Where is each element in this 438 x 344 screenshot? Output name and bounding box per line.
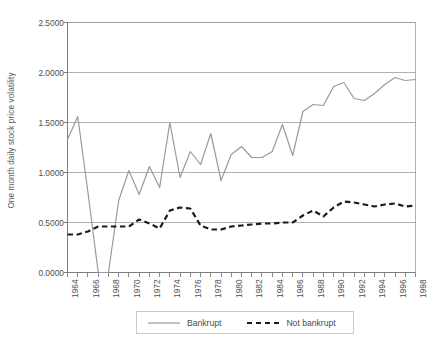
legend-item-bankrupt: Bankrupt bbox=[148, 312, 221, 333]
chart-legend: Bankrupt Not bankrupt bbox=[136, 311, 354, 334]
x-tick-label: 1974 bbox=[173, 279, 181, 298]
legend-swatch-dashed-icon bbox=[247, 318, 279, 328]
x-axis-tick-labels: 1964196619681970197219741976197819801982… bbox=[0, 0, 438, 344]
x-tick-label: 1972 bbox=[153, 279, 161, 298]
legend-item-not-bankrupt: Not bankrupt bbox=[247, 312, 335, 333]
x-tick-label: 1998 bbox=[419, 279, 427, 298]
x-tick-label: 1964 bbox=[71, 279, 79, 298]
x-tick-label: 1990 bbox=[337, 279, 345, 298]
x-tick-label: 1980 bbox=[235, 279, 243, 298]
x-tick-label: 1982 bbox=[255, 279, 263, 298]
x-tick-label: 1968 bbox=[112, 279, 120, 298]
x-tick-label: 1978 bbox=[214, 279, 222, 298]
x-tick-label: 1986 bbox=[296, 279, 304, 298]
legend-label-not-bankrupt: Not bankrupt bbox=[286, 318, 335, 328]
x-tick-label: 1996 bbox=[399, 279, 407, 298]
x-tick-label: 1994 bbox=[378, 279, 386, 298]
chart-container: One month daily stock price volatility 0… bbox=[0, 0, 438, 344]
legend-swatch-solid-icon bbox=[148, 318, 180, 328]
x-tick-label: 1976 bbox=[194, 279, 202, 298]
x-tick-label: 1970 bbox=[133, 279, 141, 298]
x-tick-label: 1984 bbox=[276, 279, 284, 298]
x-tick-label: 1966 bbox=[92, 279, 100, 298]
x-tick-label: 1988 bbox=[317, 279, 325, 298]
x-tick-label: 1992 bbox=[358, 279, 366, 298]
legend-label-bankrupt: Bankrupt bbox=[187, 318, 221, 328]
